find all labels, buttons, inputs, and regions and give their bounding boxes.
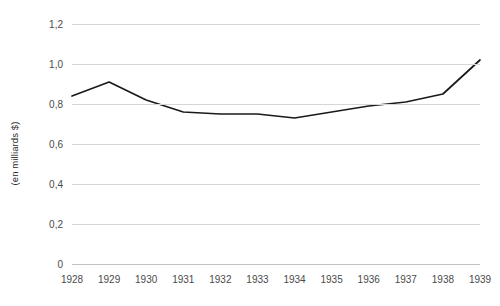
x-tick-label: 1939 — [469, 274, 491, 285]
x-tick-label: 1937 — [395, 274, 417, 285]
x-tick-label: 1933 — [246, 274, 268, 285]
x-tick-label: 1928 — [61, 274, 83, 285]
y-axis-title-label: (en milliards $) — [10, 121, 21, 185]
plot-area: 00,20,40,60,81,01,2192819291930193119321… — [72, 24, 480, 264]
y-tick-label: 0,2 — [49, 219, 63, 230]
y-tick-label: 0,4 — [49, 179, 63, 190]
y-tick-label: 0,8 — [49, 99, 63, 110]
y-tick-label: 1,2 — [49, 19, 63, 30]
gridline — [72, 64, 480, 65]
gridline — [72, 144, 480, 145]
x-tick-label: 1938 — [432, 274, 454, 285]
gridline — [72, 264, 480, 265]
x-tick-label: 1929 — [98, 274, 120, 285]
y-axis-title: (en milliards $) — [6, 0, 24, 306]
x-tick-label: 1936 — [358, 274, 380, 285]
gridline — [72, 224, 480, 225]
x-tick-label: 1930 — [135, 274, 157, 285]
y-tick-label: 1,0 — [49, 59, 63, 70]
series-line-path — [72, 60, 480, 118]
y-tick-label: 0 — [57, 259, 63, 270]
gridline — [72, 104, 480, 105]
x-tick-label: 1931 — [172, 274, 194, 285]
x-tick-label: 1934 — [283, 274, 305, 285]
gridline — [72, 24, 480, 25]
gridline — [72, 184, 480, 185]
x-tick-label: 1935 — [321, 274, 343, 285]
x-tick-label: 1932 — [209, 274, 231, 285]
y-tick-label: 0,6 — [49, 139, 63, 150]
line-chart-figure: (en milliards $) 00,20,40,60,81,01,21928… — [0, 0, 500, 306]
